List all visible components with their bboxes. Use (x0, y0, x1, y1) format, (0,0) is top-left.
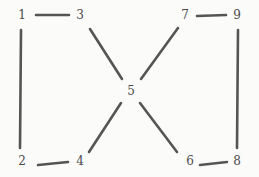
graph-node-8: 8 (233, 155, 241, 167)
graph-edge-2-4 (38, 162, 68, 165)
graph-node-5: 5 (127, 85, 135, 97)
graph-node-3: 3 (76, 9, 84, 21)
graph-node-9: 9 (233, 9, 241, 21)
graph-node-2: 2 (18, 155, 26, 167)
graph-node-6: 6 (186, 155, 194, 167)
graph-edge-8-9 (237, 30, 238, 148)
graph-edge-5-6 (140, 103, 177, 152)
graph-edge-6-8 (200, 162, 227, 165)
graph-edge-1-2 (20, 30, 21, 148)
graph-edge-4-5 (89, 103, 121, 152)
graph-node-1: 1 (18, 9, 26, 21)
graph-edge-3-5 (90, 29, 122, 79)
graph-edge-5-7 (141, 28, 178, 79)
graph-edge-7-9 (197, 15, 226, 16)
graph-node-4: 4 (76, 155, 84, 167)
graph-diagram: 123456789 (0, 0, 259, 177)
graph-node-7: 7 (181, 9, 189, 21)
